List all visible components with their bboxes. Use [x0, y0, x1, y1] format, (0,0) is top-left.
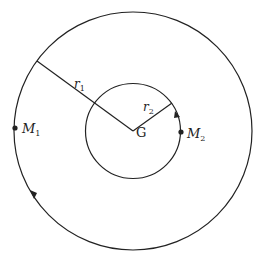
body-m1-dot	[12, 125, 17, 130]
radius-r1-line	[37, 61, 133, 131]
body-m2-dot	[178, 129, 183, 134]
r2-label: r2	[143, 100, 154, 116]
center-label-g: G	[136, 125, 146, 140]
diagram-svg: G r1 r2 M1 M2	[0, 0, 264, 265]
r1-label: r1	[74, 77, 85, 93]
m1-label: M1	[21, 121, 40, 138]
outer-direction-arrow-icon	[30, 190, 37, 199]
orbit-diagram: G r1 r2 M1 M2	[0, 0, 264, 265]
m2-label: M2	[186, 126, 205, 143]
